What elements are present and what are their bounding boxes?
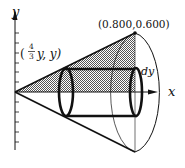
cone-lower-edge xyxy=(15,92,135,152)
dy-label: dy xyxy=(141,65,155,78)
svg-text:y, y): y, y) xyxy=(36,47,62,61)
apex-point-dot xyxy=(133,31,137,35)
svg-text:4: 4 xyxy=(29,42,34,51)
y-axis-label: y xyxy=(11,4,20,19)
x-axis-label: x xyxy=(168,84,176,99)
x-axis-arrow-icon xyxy=(148,90,158,95)
shell-point-label: ( 4 3 y, y) xyxy=(20,42,62,61)
cone-shell-diagram: y x (0.800,0.600) ( 4 3 y, y) dy xyxy=(0,0,185,168)
svg-text:3: 3 xyxy=(29,52,34,61)
y-axis xyxy=(13,10,20,150)
svg-text:(: ( xyxy=(20,47,25,61)
apex-point-label: (0.800,0.600) xyxy=(98,18,170,30)
